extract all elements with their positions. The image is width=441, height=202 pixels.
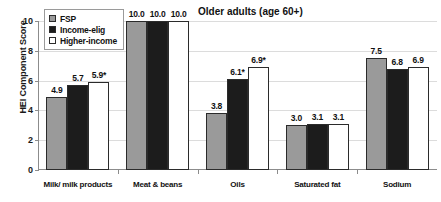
bar-value-label: 6.1*	[230, 67, 244, 77]
bar-value-label: 3.0	[291, 113, 302, 123]
y-tick-label: 6	[28, 76, 33, 86]
bar	[248, 67, 269, 170]
category-label: Sodium	[383, 180, 411, 189]
y-tick-label: 10	[23, 16, 33, 26]
group-separator-tick	[357, 170, 358, 174]
y-axis-line	[38, 21, 39, 170]
group-separator-tick	[118, 170, 119, 174]
bar-value-label: 6.8	[391, 57, 402, 67]
legend-swatch	[49, 15, 56, 22]
category-label: Meat & beans	[133, 180, 182, 189]
bar	[286, 125, 307, 170]
category-label: Milk/ milk products	[44, 180, 113, 189]
chart-title: Older adults (age 60+)	[198, 6, 303, 17]
bar	[366, 58, 387, 170]
bar-value-label: 3.1	[312, 112, 323, 122]
bar-value-label: 3.1	[333, 112, 344, 122]
bar	[46, 97, 67, 170]
y-tick-mark	[35, 110, 39, 111]
bar	[126, 21, 147, 170]
group-separator-tick	[277, 170, 278, 174]
legend-label: Higher-income	[60, 36, 117, 46]
legend-item: Income-elig	[49, 24, 117, 35]
bar	[227, 79, 248, 170]
y-tick-mark	[35, 170, 39, 171]
bar-value-label: 10.0	[171, 9, 187, 19]
legend-label: FSP	[60, 14, 76, 24]
bar	[206, 113, 227, 170]
y-tick-label: 0	[28, 165, 33, 175]
bar-value-label: 10.0	[129, 9, 145, 19]
legend-item: FSP	[49, 13, 117, 24]
group-separator-tick	[198, 170, 199, 174]
legend-label: Income-elig	[60, 25, 105, 35]
bar-value-label: 10.0	[150, 9, 166, 19]
bar	[67, 85, 88, 170]
y-tick-label: 4	[28, 105, 33, 115]
bar-value-label: 5.7	[72, 73, 83, 83]
category-label: Saturated fat	[294, 180, 340, 189]
category-label: Oils	[230, 180, 244, 189]
chart-legend: FSPIncome-eligHigher-income	[44, 9, 124, 50]
legend-swatch	[49, 37, 56, 44]
y-tick-mark	[35, 51, 39, 52]
bar	[147, 21, 168, 170]
y-tick-label: 2	[28, 135, 33, 145]
y-tick-mark	[35, 21, 39, 22]
bar	[168, 21, 189, 170]
bar	[88, 82, 109, 170]
chart-figure: HEI Component Score Older adults (age 60…	[0, 0, 441, 202]
legend-item: Higher-income	[49, 35, 117, 46]
bar	[307, 124, 328, 170]
bar	[408, 67, 429, 170]
y-tick-mark	[35, 140, 39, 141]
bar-value-label: 5.9*	[92, 70, 106, 80]
bar-value-label: 3.8	[211, 101, 222, 111]
bar	[387, 69, 408, 170]
bar	[328, 124, 349, 170]
y-tick-mark	[35, 81, 39, 82]
y-tick-label: 8	[28, 46, 33, 56]
bar-value-label: 6.9*	[251, 55, 265, 65]
legend-swatch	[49, 26, 56, 33]
bar-value-label: 7.5	[370, 46, 381, 56]
bar-value-label: 4.9	[51, 85, 62, 95]
bar-value-label: 6.9	[412, 55, 423, 65]
